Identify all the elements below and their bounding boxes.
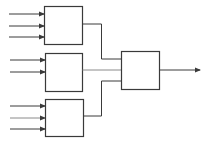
block-3-inputs [10,106,45,129]
block-2 [46,54,83,92]
block-2-inputs [10,60,45,72]
block-1-inputs [9,14,44,37]
block-3 [46,100,84,137]
wire-block3-to-block4 [84,81,122,116]
block-1 [45,7,83,45]
wire-block1-to-block4 [83,24,122,59]
block-4 [122,52,160,90]
block-diagram [0,0,208,145]
